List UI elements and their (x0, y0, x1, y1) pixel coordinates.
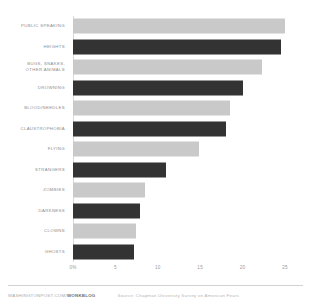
bar-row (73, 242, 285, 263)
x-axis-tick-labels: 0%510152025 (73, 265, 285, 275)
publisher-credit: WASHINGTONPOST.COM/WONKBLOG (8, 293, 96, 298)
bar (73, 60, 262, 75)
bar-row (73, 119, 285, 140)
y-axis-label: FLYING (0, 139, 69, 160)
bar-row (73, 160, 285, 181)
y-axis-label: HEIGHTS (0, 37, 69, 58)
chart-footer: WASHINGTONPOST.COM/WONKBLOG Source: Chap… (8, 290, 303, 300)
y-axis-label: BUGS, SNAKES, OTHER ANIMALS (0, 57, 69, 78)
bar (73, 224, 136, 239)
bar-rows (73, 16, 285, 262)
bar-row (73, 139, 285, 160)
bar (73, 39, 281, 54)
bar (73, 162, 166, 177)
y-axis-label: CLAUSTROPHOBIA (0, 119, 69, 140)
x-axis-tick: 20 (240, 265, 246, 270)
y-axis-label: CLOWNS (0, 221, 69, 242)
x-axis-tick: 10 (155, 265, 161, 270)
bar-row (73, 201, 285, 222)
x-axis-tick: 5 (114, 265, 117, 270)
publisher-site: WASHINGTONPOST.COM/ (8, 293, 67, 298)
plot-area (73, 16, 285, 262)
y-axis-label: BLOOD/NEEDLES (0, 98, 69, 119)
bar (73, 80, 243, 95)
data-source-note: Source: Chapman University Survey on Ame… (118, 293, 240, 298)
gridline (285, 16, 286, 262)
bar (73, 203, 140, 218)
bar (73, 183, 145, 198)
bar (73, 142, 199, 157)
y-axis-label: GHOSTS (0, 242, 69, 263)
bar-row (73, 16, 285, 37)
fears-bar-chart: PUBLIC SPEAKINGHEIGHTSBUGS, SNAKES, OTHE… (0, 0, 309, 305)
footer-divider (8, 285, 303, 286)
x-axis-tick: 0% (69, 265, 76, 270)
bar (73, 121, 226, 136)
publisher-brand: WONKBLOG (67, 293, 96, 298)
y-axis-label: STRANGERS (0, 160, 69, 181)
x-axis-tick: 15 (197, 265, 203, 270)
bar-row (73, 37, 285, 58)
bar-row (73, 98, 285, 119)
bar (73, 101, 230, 116)
bar-row (73, 78, 285, 99)
y-axis-label: ZOMBIES (0, 180, 69, 201)
y-axis-label: DARKNESS (0, 201, 69, 222)
bar-row (73, 57, 285, 78)
bar-row (73, 221, 285, 242)
y-axis-category-labels: PUBLIC SPEAKINGHEIGHTSBUGS, SNAKES, OTHE… (0, 16, 69, 262)
y-axis-label: DROWNING (0, 78, 69, 99)
bar-row (73, 180, 285, 201)
bar (73, 244, 134, 259)
y-axis-label: PUBLIC SPEAKING (0, 16, 69, 37)
bar (73, 19, 285, 34)
x-axis-tick: 25 (282, 265, 288, 270)
